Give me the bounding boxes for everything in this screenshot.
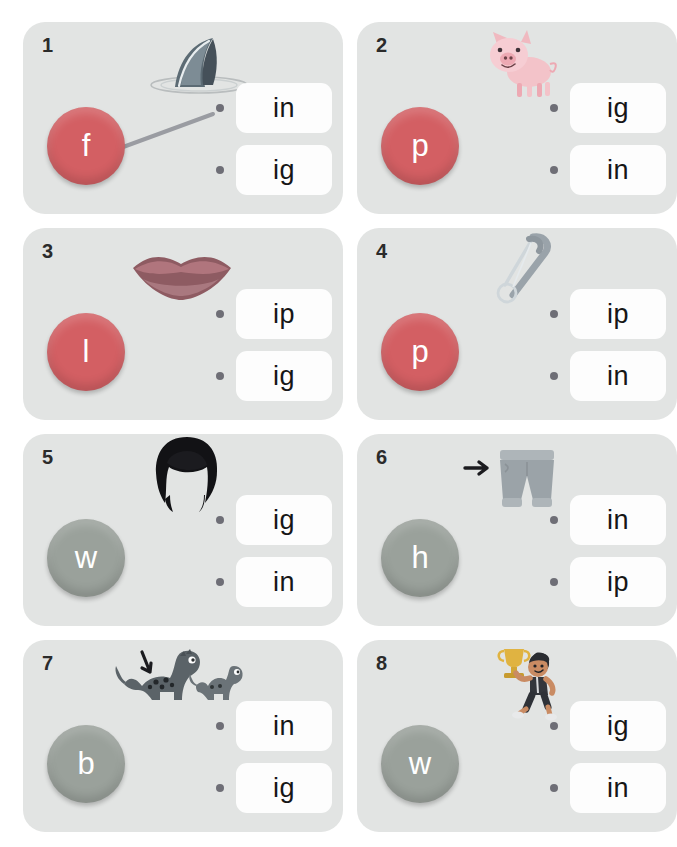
option-row[interactable]: in [550,494,666,546]
option-row[interactable]: in [550,762,666,814]
option-dot[interactable] [216,516,224,524]
question-card-1[interactable]: 1 f [23,22,343,214]
option-list: in ig [216,82,332,206]
option-dot[interactable] [550,784,558,792]
option-row[interactable]: ip [550,288,666,340]
letter-circle[interactable]: p [381,107,459,185]
option-list: ig in [216,494,332,618]
option-row[interactable]: in [550,350,666,402]
letter-circle-label: b [77,746,94,782]
option-dot[interactable] [550,104,558,112]
card-number: 3 [42,240,53,263]
option-dot[interactable] [550,372,558,380]
option-list: in ig [216,700,332,824]
option-box[interactable]: ip [570,289,666,339]
option-box[interactable]: in [236,83,332,133]
option-box[interactable]: ip [570,557,666,607]
option-list: ig in [550,82,666,206]
letter-circle-label: h [411,540,428,576]
question-card-4[interactable]: 4 p ip [357,228,677,420]
question-card-3[interactable]: 3 l ip ig [23,228,343,420]
option-row[interactable]: in [550,144,666,196]
card-number: 7 [42,652,53,675]
option-dot[interactable] [550,166,558,174]
option-list: ip ig [216,288,332,412]
letter-circle-label: l [83,334,90,370]
option-dot[interactable] [216,104,224,112]
option-row[interactable]: ig [550,700,666,752]
option-box[interactable]: ip [236,289,332,339]
option-dot[interactable] [216,310,224,318]
letter-circle[interactable]: h [381,519,459,597]
option-box[interactable]: in [570,351,666,401]
option-box[interactable]: ig [570,83,666,133]
option-dot[interactable] [550,722,558,730]
letter-circle-label: f [82,128,91,164]
question-card-8[interactable]: 8 [357,640,677,832]
option-box[interactable]: in [570,495,666,545]
option-box[interactable]: in [570,763,666,813]
option-box[interactable]: in [236,557,332,607]
letter-circle-label: w [409,746,431,782]
letter-circle[interactable]: w [47,519,125,597]
option-dot[interactable] [216,372,224,380]
option-list: in ip [550,494,666,618]
card-number: 6 [376,446,387,469]
option-dot[interactable] [216,784,224,792]
option-dot[interactable] [216,722,224,730]
option-row[interactable]: ig [216,494,332,546]
option-dot[interactable] [550,578,558,586]
option-row[interactable]: ip [216,288,332,340]
card-number: 8 [376,652,387,675]
card-number: 2 [376,34,387,57]
option-row[interactable]: ig [550,82,666,134]
option-box[interactable]: ig [236,763,332,813]
option-list: ig in [550,700,666,824]
option-box[interactable]: in [570,145,666,195]
question-card-2[interactable]: 2 [357,22,677,214]
pointer-arrow-icon [465,462,487,474]
card-number: 5 [42,446,53,469]
letter-circle-label: p [411,128,428,164]
letter-circle-label: w [75,540,97,576]
option-row[interactable]: ig [216,762,332,814]
option-row[interactable]: ig [216,350,332,402]
letter-circle[interactable]: f [47,107,125,185]
option-row[interactable]: ig [216,144,332,196]
option-row[interactable]: in [216,82,332,134]
question-card-5[interactable]: 5 w ig [23,434,343,626]
card-number: 4 [376,240,387,263]
option-dot[interactable] [550,310,558,318]
card-grid: 1 f [0,0,677,847]
option-dot[interactable] [216,578,224,586]
option-row[interactable]: ip [550,556,666,608]
option-box[interactable]: ig [570,701,666,751]
option-list: ip in [550,288,666,412]
option-box[interactable]: ig [236,495,332,545]
question-card-7[interactable]: 7 [23,640,343,832]
card-number: 1 [42,34,53,57]
letter-circle[interactable]: b [47,725,125,803]
letter-circle[interactable]: l [47,313,125,391]
letter-circle[interactable]: w [381,725,459,803]
pointer-arrow-icon [142,652,151,672]
option-row[interactable]: in [216,556,332,608]
option-box[interactable]: ig [236,351,332,401]
option-box[interactable]: ig [236,145,332,195]
option-dot[interactable] [216,166,224,174]
option-box[interactable]: in [236,701,332,751]
letter-circle-label: p [411,334,428,370]
option-dot[interactable] [550,516,558,524]
option-row[interactable]: in [216,700,332,752]
question-card-6[interactable]: 6 h [357,434,677,626]
worksheet-page: 1 f [0,0,677,847]
letter-circle[interactable]: p [381,313,459,391]
